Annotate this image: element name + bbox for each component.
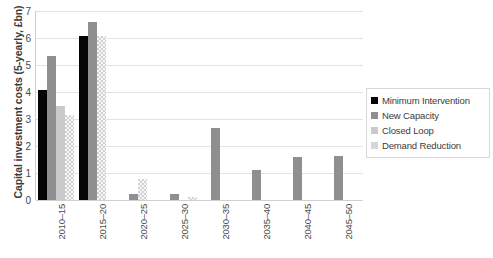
bar[interactable] [211,128,220,200]
x-axis-labels: 2010–152015–202020–252025–302030–352035–… [36,202,363,258]
bar[interactable] [138,179,147,200]
y-tick-label: 5 [25,60,31,71]
x-tick-label: 2010–15 [56,204,67,240]
x-label-cell: 2040–45 [281,202,322,258]
bar-group [36,11,77,200]
bar[interactable] [47,56,56,200]
bar[interactable] [56,106,65,200]
legend-item[interactable]: New Capacity [371,108,485,123]
legend-label: Minimum Intervention [382,95,470,106]
bar[interactable] [334,156,343,200]
bar-group-bars [159,11,200,200]
bar-group-bars [322,11,363,200]
y-tick-label: 3 [25,114,31,125]
bar[interactable] [97,36,106,200]
x-label-cell: 2025–30 [159,202,200,258]
x-label-cell: 2020–25 [118,202,159,258]
bar[interactable] [79,36,88,200]
legend-item[interactable]: Minimum Intervention [371,93,485,108]
x-tick-label: 2040–45 [302,204,313,240]
bar[interactable] [88,22,97,200]
bar[interactable] [188,197,197,200]
bar-group [281,11,322,200]
plot-area: 01234567 [36,11,363,200]
bar-group-bars [200,11,241,200]
bar[interactable] [252,170,261,201]
legend-label: Closed Loop [382,125,434,136]
x-tick-label: 2020–25 [138,204,149,240]
bar-group [118,11,159,200]
y-axis-title: Capital investment costs (5-yearly, £bn) [12,2,24,202]
y-tick-label: 0 [25,195,31,206]
bar-group-bars [118,11,159,200]
x-label-cell: 2015–20 [77,202,118,258]
legend-item[interactable]: Demand Reduction [371,138,485,153]
bar-groups [36,11,363,200]
x-label-cell: 2035–40 [240,202,281,258]
bar-group [200,11,241,200]
y-tick-label: 1 [25,168,31,179]
legend-label: New Capacity [382,110,439,121]
bar-chart: Capital investment costs (5-yearly, £bn)… [0,0,493,258]
x-tick-label: 2035–40 [261,204,272,240]
legend-item[interactable]: Closed Loop [371,123,485,138]
gridline: 0 [36,200,363,201]
x-label-cell: 2045–50 [322,202,363,258]
legend-label: Demand Reduction [382,140,461,151]
bar-group-bars [77,11,118,200]
x-tick-label: 2045–50 [343,204,354,240]
y-tick-label: 7 [25,6,31,17]
bar-group [159,11,200,200]
bar-group [322,11,363,200]
legend-swatch-icon [371,112,378,119]
bar-group-bars [240,11,281,200]
legend-swatch-icon [371,97,378,104]
legend-swatch-icon [371,127,378,134]
bar[interactable] [293,157,302,200]
x-label-cell: 2010–15 [36,202,77,258]
bar-group-bars [281,11,322,200]
bar-group [77,11,118,200]
bar[interactable] [65,115,74,200]
bar[interactable] [170,194,179,200]
y-tick-label: 2 [25,141,31,152]
bar-group [240,11,281,200]
bar[interactable] [38,90,47,200]
legend-swatch-icon [371,142,378,149]
bar[interactable] [129,194,138,200]
y-tick-label: 4 [25,87,31,98]
chart-legend: Minimum InterventionNew CapacityClosed L… [366,88,490,158]
x-tick-label: 2015–20 [97,204,108,240]
bar-group-bars [36,11,77,200]
y-tick-label: 6 [25,33,31,44]
x-tick-label: 2030–35 [220,204,231,240]
x-label-cell: 2030–35 [200,202,241,258]
x-tick-label: 2025–30 [179,204,190,240]
